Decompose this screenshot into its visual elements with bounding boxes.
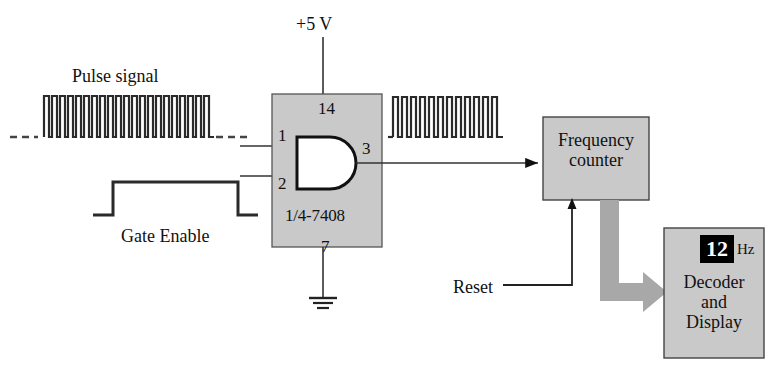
output-pulse-train	[393, 97, 503, 137]
decoder-display-label: DecoderandDisplay	[664, 272, 764, 332]
frequency-counter-line-1: Frequency	[558, 130, 634, 150]
pulse-signal-pulse-train	[44, 96, 214, 137]
gray-block-arrow	[600, 200, 667, 312]
frequency-counter-label: Frequencycounter	[543, 130, 649, 170]
ic-part-number-label: 1/4-7408	[285, 206, 345, 225]
ground-symbol	[309, 247, 337, 308]
display-readout-value: 12	[700, 235, 734, 263]
pin-3-label: 3	[362, 139, 371, 158]
pulse-signal-label: Pulse signal	[72, 66, 159, 86]
decoder-display-line-3: Display	[686, 312, 742, 332]
decoder-display-line-1: Decoder	[684, 272, 745, 292]
and-gate-symbol	[297, 137, 356, 189]
gate-enable-waveform	[93, 182, 258, 215]
pin-1-label: 1	[278, 126, 287, 145]
frequency-counter-line-2: counter	[569, 150, 623, 170]
counter-to-display-arrow	[600, 200, 667, 312]
gated-output-waveform	[388, 97, 503, 137]
pin-7-label: 7	[321, 237, 330, 256]
supply-voltage-label: +5 V	[296, 14, 332, 34]
pin-14-label: 14	[318, 99, 335, 118]
reset-label: Reset	[453, 277, 493, 297]
reset-connection	[503, 198, 577, 285]
frequency-counter-diagram: Pulse signal Gate Enable +5 V 14 1 2 3 7…	[0, 0, 777, 376]
hz-unit-label: Hz	[737, 241, 755, 258]
decoder-display-line-2: and	[701, 292, 727, 312]
diagram-vector-layer	[0, 0, 777, 376]
reset-wire	[503, 205, 572, 285]
pin-2-label: 2	[278, 174, 287, 193]
gate-enable-label: Gate Enable	[121, 226, 209, 246]
gate-enable-pulse	[93, 182, 258, 215]
pulse-signal-waveform	[10, 96, 252, 137]
